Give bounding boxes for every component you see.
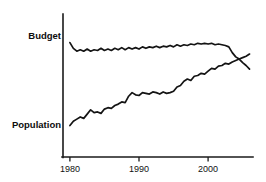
- x-axis-tick-label: 2000: [198, 164, 218, 174]
- x-axis-tick-label: 1990: [129, 164, 149, 174]
- x-axis-tick-labels: 198019902000: [60, 164, 218, 174]
- series-label-budget: Budget: [28, 30, 62, 41]
- series-line-population: [70, 54, 250, 126]
- x-axis-tick-label: 1980: [60, 164, 80, 174]
- line-chart: 198019902000 Budget Population: [0, 0, 266, 182]
- chart-container: 198019902000 Budget Population: [0, 0, 266, 182]
- series-label-population: Population: [12, 119, 61, 130]
